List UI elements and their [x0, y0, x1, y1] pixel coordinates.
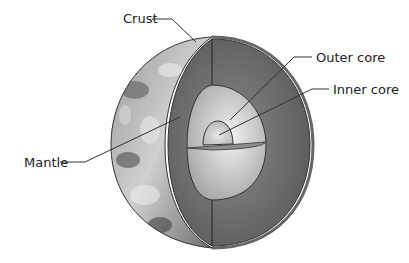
- earth-cross-section: [0, 0, 409, 263]
- label-mantle: Mantle: [24, 156, 68, 169]
- label-crust: Crust: [123, 12, 158, 25]
- label-outer-core: Outer core: [316, 51, 385, 64]
- label-inner-core: Inner core: [333, 83, 399, 96]
